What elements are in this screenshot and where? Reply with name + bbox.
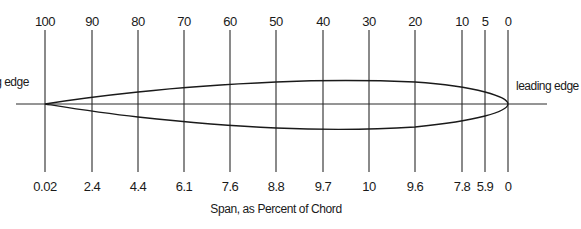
thickness-label: 10 xyxy=(362,179,376,194)
top-label: 50 xyxy=(269,14,283,29)
thickness-label: 2.4 xyxy=(84,179,101,194)
top-label: 40 xyxy=(316,14,330,29)
airfoil-diagram: 100 90 80 70 60 50 40 30 20 10 5 0 0.02 … xyxy=(0,0,581,229)
trailing-edge-label: trailing edge xyxy=(0,75,30,89)
thickness-label: 8.8 xyxy=(268,179,285,194)
top-label: 70 xyxy=(177,14,191,29)
thickness-label: 7.8 xyxy=(454,179,471,194)
top-label: 20 xyxy=(408,14,422,29)
leading-edge-label: leading edge xyxy=(516,79,580,93)
top-label: 100 xyxy=(35,14,55,29)
axis-title: Span, as Percent of Chord xyxy=(210,202,341,216)
thickness-label: 0 xyxy=(505,179,512,194)
top-label: 0 xyxy=(505,14,512,29)
thickness-label: 9.6 xyxy=(407,179,424,194)
top-label: 80 xyxy=(131,14,145,29)
top-label: 10 xyxy=(455,14,469,29)
thickness-label: 6.1 xyxy=(176,179,193,194)
bottom-labels: 0.02 2.4 4.4 6.1 7.6 8.8 9.7 10 9.6 7.8 … xyxy=(33,179,511,194)
thickness-label: 4.4 xyxy=(130,179,147,194)
top-label: 60 xyxy=(223,14,237,29)
top-label: 90 xyxy=(85,14,99,29)
thickness-label: 0.02 xyxy=(33,179,57,194)
top-label: 5 xyxy=(482,14,489,29)
thickness-label: 7.6 xyxy=(222,179,239,194)
thickness-label: 9.7 xyxy=(315,179,332,194)
top-label: 30 xyxy=(362,14,376,29)
thickness-label: 5.9 xyxy=(477,179,494,194)
top-labels: 100 90 80 70 60 50 40 30 20 10 5 0 xyxy=(35,14,512,29)
station-lines xyxy=(45,30,508,172)
